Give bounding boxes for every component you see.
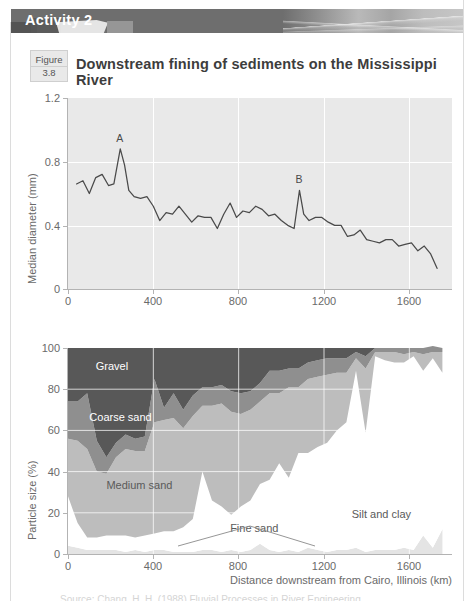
bottom-xticklabel-0: 0 bbox=[65, 560, 71, 572]
bottom-xticklabel-800: 800 bbox=[229, 560, 247, 572]
bottom-x-axis bbox=[67, 554, 452, 555]
bottom-ytick-60 bbox=[63, 430, 67, 431]
bottom-xtick-800 bbox=[238, 555, 239, 559]
bottom-xtick-1200 bbox=[324, 555, 325, 559]
bottom-ytick-80 bbox=[63, 389, 67, 390]
bottom-xticklabel-1200: 1200 bbox=[312, 560, 336, 572]
figure-page: Activity 2 Figure 3.8 Downstream fining … bbox=[0, 0, 475, 601]
bottom-xtick-1600 bbox=[409, 555, 410, 559]
bottom-yticklabel-100: 100 bbox=[28, 342, 60, 354]
bottom-yticklabel-0: 0 bbox=[28, 548, 60, 560]
bottom-xticklabel-400: 400 bbox=[144, 560, 162, 572]
bottom-ytick-0 bbox=[63, 554, 67, 555]
bottom-yticklabel-60: 60 bbox=[28, 424, 60, 436]
silt-and-clay-leader-lines bbox=[68, 348, 452, 554]
cut-off-source-text: Source: Chang, H. H. (1988) Fluvial Proc… bbox=[60, 594, 440, 601]
bottom-xtick-0 bbox=[68, 555, 69, 559]
bottom-yticklabel-80: 80 bbox=[28, 383, 60, 395]
bottom-ytick-40 bbox=[63, 472, 67, 473]
chart-particle-size-composition: 100 80 60 40 20 0 0 400 800 1200 1600 Pa… bbox=[0, 0, 475, 601]
bottom-x-axis-title: Distance downstream from Cairo, Illinois… bbox=[230, 574, 452, 586]
bottom-y-axis-title: Particle size (%) bbox=[26, 461, 38, 540]
bottom-ytick-20 bbox=[63, 513, 67, 514]
bottom-xticklabel-1600: 1600 bbox=[397, 560, 421, 572]
bottom-xtick-400 bbox=[153, 555, 154, 559]
bottom-ytick-100 bbox=[63, 348, 67, 349]
